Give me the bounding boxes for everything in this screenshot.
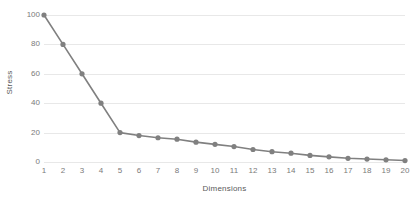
x-tick-label-20: 20 xyxy=(396,167,414,175)
data-point-3 xyxy=(79,71,84,76)
x-tick-label-3: 3 xyxy=(73,167,91,175)
data-point-19 xyxy=(383,157,388,162)
x-tick-label-5: 5 xyxy=(111,167,129,175)
data-point-17 xyxy=(345,156,350,161)
data-point-18 xyxy=(364,156,369,161)
series-stress xyxy=(44,15,405,162)
x-tick-label-19: 19 xyxy=(377,167,395,175)
data-point-7 xyxy=(155,135,160,140)
data-point-2 xyxy=(60,42,65,47)
x-tick-label-11: 11 xyxy=(225,167,243,175)
x-tick-label-12: 12 xyxy=(244,167,262,175)
x-tick-label-17: 17 xyxy=(339,167,357,175)
x-axis-title: Dimensions xyxy=(44,184,405,198)
gridline-y-0 xyxy=(44,162,405,163)
x-tick-label-18: 18 xyxy=(358,167,376,175)
y-tick-label-80: 80 xyxy=(14,40,40,48)
y-tick-label-40: 40 xyxy=(14,99,40,107)
data-point-10 xyxy=(212,142,217,147)
data-point-15 xyxy=(307,153,312,158)
data-point-9 xyxy=(193,140,198,145)
data-point-5 xyxy=(117,130,122,135)
x-tick-label-4: 4 xyxy=(92,167,110,175)
x-tick-label-15: 15 xyxy=(301,167,319,175)
x-tick-label-16: 16 xyxy=(320,167,338,175)
y-tick-label-100: 100 xyxy=(14,11,40,19)
data-point-6 xyxy=(136,133,141,138)
y-axis-title: Stress xyxy=(2,0,18,164)
x-tick-label-10: 10 xyxy=(206,167,224,175)
x-tick-label-8: 8 xyxy=(168,167,186,175)
data-point-13 xyxy=(269,149,274,154)
y-tick-label-0: 0 xyxy=(14,158,40,166)
x-tick-label-2: 2 xyxy=(54,167,72,175)
series-markers xyxy=(41,12,407,163)
x-tick-label-9: 9 xyxy=(187,167,205,175)
x-tick-label-6: 6 xyxy=(130,167,148,175)
data-point-11 xyxy=(231,144,236,149)
data-point-8 xyxy=(174,137,179,142)
data-point-1 xyxy=(41,12,46,17)
data-point-20 xyxy=(402,158,407,163)
x-tick-label-1: 1 xyxy=(35,167,53,175)
plot-area xyxy=(44,15,405,162)
data-point-14 xyxy=(288,151,293,156)
series-line xyxy=(44,15,405,161)
data-point-12 xyxy=(250,147,255,152)
x-tick-label-14: 14 xyxy=(282,167,300,175)
x-tick-label-7: 7 xyxy=(149,167,167,175)
data-point-4 xyxy=(98,101,103,106)
data-point-16 xyxy=(326,154,331,159)
y-tick-label-60: 60 xyxy=(14,70,40,78)
y-tick-label-20: 20 xyxy=(14,129,40,137)
x-tick-label-13: 13 xyxy=(263,167,281,175)
